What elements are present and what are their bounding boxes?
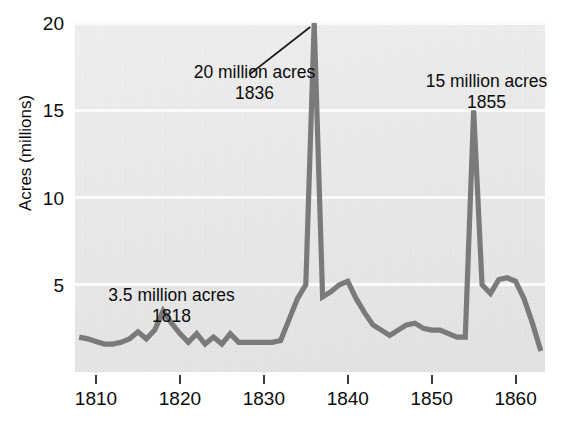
annotation-1836: 20 million acres 1836 (167, 62, 342, 103)
x-tick-mark-1810 (95, 375, 97, 384)
x-tick-mark-1860 (515, 375, 517, 384)
y-tick-label-5: 5 (0, 276, 64, 295)
annotation-1836-line1: 20 million acres (194, 62, 316, 82)
x-tick-label-1860: 1860 (494, 389, 536, 408)
x-tick-mark-1850 (431, 375, 433, 384)
x-tick-label-1850: 1850 (411, 389, 453, 408)
annotation-1818-line2: 1818 (84, 306, 259, 327)
x-tick-label-1830: 1830 (243, 389, 285, 408)
annotation-1855: 15 million acres 1855 (399, 71, 567, 112)
x-tick-label-1810: 1810 (75, 389, 117, 408)
y-tick-label-15: 15 (0, 101, 64, 120)
x-tick-mark-1820 (179, 375, 181, 384)
y-tick-label-20: 20 (0, 14, 64, 33)
y-axis-title: Acres (millions) (16, 53, 36, 253)
chart-figure: Acres (millions) 20 15 10 5 20 million a… (0, 0, 567, 434)
annotation-1818-line1: 3.5 million acres (108, 285, 234, 305)
x-tick-mark-1840 (347, 375, 349, 384)
x-tick-mark-1830 (263, 375, 265, 384)
y-tick-label-10: 10 (0, 189, 64, 208)
annotation-1855-line2: 1855 (399, 92, 567, 113)
x-tick-label-1840: 1840 (327, 389, 369, 408)
annotation-1836-line2: 1836 (167, 83, 342, 104)
annotation-1818: 3.5 million acres 1818 (84, 285, 259, 326)
annotation-1855-line1: 15 million acres (426, 71, 548, 91)
x-tick-label-1820: 1820 (159, 389, 201, 408)
